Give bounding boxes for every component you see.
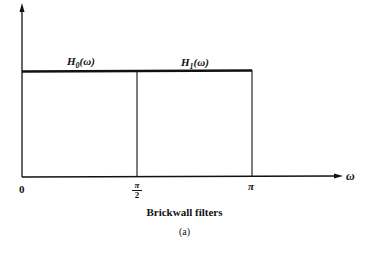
x-axis-arrow-icon <box>334 174 343 179</box>
y-axis-arrow-icon <box>20 3 25 12</box>
tick-pi: π <box>248 181 254 192</box>
h0-label-arg: (ω) <box>80 55 95 67</box>
tick-zero: 0 <box>19 184 25 195</box>
tick-pi-half: π 2 <box>132 181 142 200</box>
x-axis-label: ω <box>346 170 355 182</box>
h1-label-arg: (ω) <box>194 56 209 68</box>
subfigure-label: (a) <box>0 227 369 237</box>
h1-label-text: H <box>181 56 190 68</box>
h0-label-text: H <box>67 55 76 67</box>
figure-caption: Brickwall filters <box>0 207 369 218</box>
tick-pi-half-denominator: 2 <box>132 191 142 200</box>
h1-label: H1(ω) <box>181 57 209 71</box>
x-axis <box>22 176 336 177</box>
h0-label: H0(ω) <box>67 56 95 70</box>
